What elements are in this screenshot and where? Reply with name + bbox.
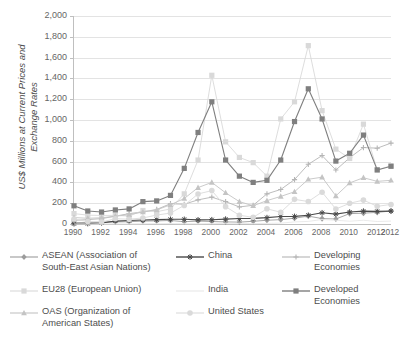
data-point-diamond xyxy=(21,254,26,260)
legend-label: Developed Economies xyxy=(314,284,404,307)
legend-item[interactable]: India xyxy=(174,284,228,296)
legend-item[interactable]: United States xyxy=(174,306,264,318)
x-axis-tick-label: 1990 xyxy=(64,227,82,237)
data-point-circle xyxy=(71,216,77,222)
x-axis-tick-label: 2006 xyxy=(284,227,302,237)
data-point-circle xyxy=(168,210,174,216)
data-point-plus xyxy=(388,140,393,145)
data-point-square-dark xyxy=(154,198,159,203)
data-point-star xyxy=(187,254,193,260)
data-point-star xyxy=(374,209,380,215)
data-point-square xyxy=(361,122,366,127)
data-point-plus xyxy=(195,197,200,202)
y-axis-tick-label: 1,400 xyxy=(19,72,67,82)
chart-legend: ASEAN (Association of South-East Asian N… xyxy=(8,250,404,350)
legend-item[interactable]: OAS (Organization of American States) xyxy=(8,306,130,329)
data-point-square xyxy=(209,73,214,78)
data-point-square xyxy=(278,116,283,121)
data-point-circle xyxy=(187,310,193,316)
series-path xyxy=(74,177,391,218)
data-point-circle xyxy=(347,201,353,207)
series-path xyxy=(74,46,391,216)
legend-marker-circle-icon xyxy=(174,307,208,318)
data-point-square xyxy=(251,160,256,165)
legend-marker-star-icon xyxy=(174,251,208,262)
data-point-square xyxy=(21,288,26,293)
y-axis-tick-label: 1,000 xyxy=(19,114,67,124)
legend-marker-triangle-icon xyxy=(8,307,42,318)
data-point-triangle xyxy=(236,199,242,204)
y-axis-tick-label: 800 xyxy=(19,135,67,145)
legend-item[interactable]: EU28 (European Union) xyxy=(8,284,141,296)
x-axis-tick-label: 1992 xyxy=(91,227,109,237)
data-point-star xyxy=(195,217,201,223)
legend-item[interactable]: China xyxy=(174,250,232,262)
data-point-square-dark xyxy=(237,174,242,179)
legend-label: United States xyxy=(208,306,264,318)
data-point-star xyxy=(361,208,367,214)
data-point-square xyxy=(306,43,311,48)
data-point-plus xyxy=(293,254,298,259)
data-point-star xyxy=(333,211,339,217)
x-axis-tick-label: 1996 xyxy=(146,227,164,237)
data-point-circle xyxy=(237,212,243,218)
x-axis-tick-label: 2012 xyxy=(381,227,399,237)
data-point-circle xyxy=(264,206,270,212)
data-point-square-dark xyxy=(251,180,256,185)
data-point-plus xyxy=(375,146,380,151)
data-point-star xyxy=(388,208,394,214)
data-point-square xyxy=(347,156,352,161)
legend-label: ASEAN (Association of South-East Asian N… xyxy=(42,250,151,273)
data-point-star xyxy=(181,217,187,223)
y-axis-tick-label: 2,000 xyxy=(19,10,67,20)
data-point-plus xyxy=(223,199,228,204)
data-point-square-dark xyxy=(113,207,118,212)
data-point-triangle xyxy=(209,179,215,184)
data-point-circle xyxy=(388,202,394,208)
data-point-circle xyxy=(374,204,380,210)
series-line xyxy=(71,174,394,220)
data-point-circle xyxy=(99,219,105,225)
data-point-star xyxy=(168,217,174,223)
data-point-circle xyxy=(140,215,146,221)
data-point-circle xyxy=(154,212,160,218)
data-point-square-dark xyxy=(319,116,324,121)
x-axis-tick-label: 2004 xyxy=(257,227,275,237)
data-point-circle xyxy=(181,203,187,209)
series-line xyxy=(71,43,393,219)
data-point-circle xyxy=(223,204,229,210)
data-point-square xyxy=(292,99,297,104)
x-axis-tick-label: 2008 xyxy=(312,227,330,237)
legend-item[interactable]: ASEAN (Association of South-East Asian N… xyxy=(8,250,151,273)
data-point-circle xyxy=(113,216,119,222)
x-axis-tick-label: 1998 xyxy=(174,227,192,237)
legend-label: China xyxy=(208,250,232,262)
x-axis-tick-label: 1994 xyxy=(119,227,137,237)
data-point-circle xyxy=(306,199,312,205)
legend-item[interactable]: Developed Economies xyxy=(280,284,404,307)
data-point-square-dark xyxy=(306,86,311,91)
data-point-star xyxy=(347,209,353,215)
data-point-square xyxy=(223,139,228,144)
y-axis-tick-label: 400 xyxy=(19,176,67,186)
data-point-circle xyxy=(361,197,367,203)
legend-item[interactable]: Developing Economies xyxy=(280,250,404,273)
data-point-square-dark xyxy=(347,151,352,156)
data-point-square-dark xyxy=(278,157,283,162)
data-point-circle xyxy=(278,209,284,215)
data-point-triangle xyxy=(361,175,367,180)
plot-area: 02004006008001,0001,2001,4001,6001,8002,… xyxy=(73,16,391,225)
data-point-plus xyxy=(237,204,242,209)
data-point-square xyxy=(195,157,200,162)
data-point-circle xyxy=(195,191,201,197)
data-point-square-dark xyxy=(293,288,298,293)
legend-marker-plus-icon xyxy=(280,251,314,262)
y-axis-tick-label: 600 xyxy=(19,156,67,166)
x-axis: 1990199219941996199820002002200420062008… xyxy=(73,227,390,241)
data-point-square-dark xyxy=(127,206,132,211)
data-point-star xyxy=(264,215,270,221)
data-point-square-dark xyxy=(361,132,366,137)
legend-marker-none-icon xyxy=(174,285,208,296)
data-point-star xyxy=(223,216,229,222)
data-point-square-dark xyxy=(71,203,76,208)
